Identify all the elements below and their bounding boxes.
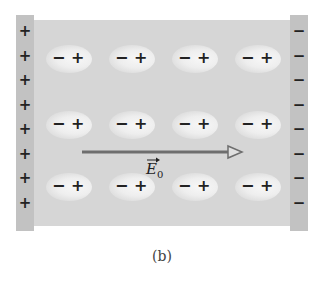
dipole: −+ bbox=[172, 45, 218, 73]
positive-charge: + bbox=[71, 50, 84, 66]
plate-charge-sign: + bbox=[16, 171, 34, 186]
plate-charge-sign: − bbox=[290, 24, 308, 39]
negative-charge: − bbox=[241, 50, 254, 66]
dipole: −+ bbox=[109, 45, 155, 73]
negative-plate: −−−−−−−− bbox=[290, 15, 308, 231]
positive-charge: + bbox=[134, 50, 147, 66]
negative-charge: − bbox=[115, 178, 128, 194]
plate-charge-sign: − bbox=[290, 196, 308, 211]
figure-caption: (b) bbox=[0, 248, 324, 264]
plate-charge-sign: − bbox=[290, 98, 308, 113]
negative-charge: − bbox=[178, 178, 191, 194]
plate-charge-sign: + bbox=[16, 24, 34, 39]
dipole: −+ bbox=[46, 173, 92, 201]
dipole: −+ bbox=[109, 111, 155, 139]
negative-charge: − bbox=[115, 116, 128, 132]
dipole: −+ bbox=[46, 111, 92, 139]
plate-charge-sign: − bbox=[290, 147, 308, 162]
plate-charge-sign: − bbox=[290, 122, 308, 137]
electric-field-arrow-icon bbox=[78, 144, 248, 160]
plate-charge-sign: + bbox=[16, 73, 34, 88]
capacitor-dielectric-diagram: ++++++++ −−−−−−−− −+−+−+−+−+−+−+−+−+−+−+… bbox=[0, 0, 324, 282]
plate-charge-sign: + bbox=[16, 98, 34, 113]
plate-charge-sign: + bbox=[16, 49, 34, 64]
field-subscript: 0 bbox=[157, 169, 163, 180]
positive-charge: + bbox=[260, 178, 273, 194]
dipole: −+ bbox=[235, 111, 281, 139]
vector-arrow-icon bbox=[147, 157, 161, 163]
negative-charge: − bbox=[52, 116, 65, 132]
negative-charge: − bbox=[52, 178, 65, 194]
dipole: −+ bbox=[172, 173, 218, 201]
plate-charge-sign: − bbox=[290, 73, 308, 88]
plate-charge-sign: − bbox=[290, 49, 308, 64]
positive-charge: + bbox=[134, 178, 147, 194]
positive-charge: + bbox=[197, 50, 210, 66]
positive-plate: ++++++++ bbox=[16, 15, 34, 231]
plate-charge-sign: + bbox=[16, 147, 34, 162]
plate-charge-sign: + bbox=[16, 196, 34, 211]
field-label: E0 bbox=[146, 160, 163, 180]
negative-charge: − bbox=[241, 116, 254, 132]
dipole: −+ bbox=[172, 111, 218, 139]
dipole: −+ bbox=[235, 45, 281, 73]
plate-charge-sign: − bbox=[290, 171, 308, 186]
positive-charge: + bbox=[197, 178, 210, 194]
positive-charge: + bbox=[197, 116, 210, 132]
negative-charge: − bbox=[178, 116, 191, 132]
negative-charge: − bbox=[115, 50, 128, 66]
plate-charge-sign: + bbox=[16, 122, 34, 137]
positive-charge: + bbox=[134, 116, 147, 132]
dipole: −+ bbox=[46, 45, 92, 73]
positive-charge: + bbox=[260, 50, 273, 66]
dipole: −+ bbox=[235, 173, 281, 201]
negative-charge: − bbox=[52, 50, 65, 66]
negative-charge: − bbox=[178, 50, 191, 66]
positive-charge: + bbox=[71, 116, 84, 132]
positive-charge: + bbox=[260, 116, 273, 132]
positive-charge: + bbox=[71, 178, 84, 194]
negative-charge: − bbox=[241, 178, 254, 194]
